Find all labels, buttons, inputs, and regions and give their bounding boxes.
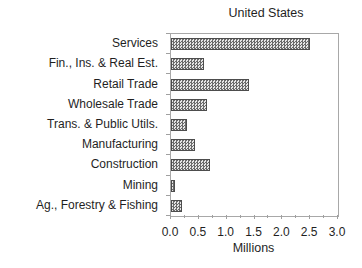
x-axis-tick bbox=[267, 215, 268, 218]
x-axis-tick bbox=[184, 215, 185, 218]
x-axis-tick bbox=[198, 215, 199, 219]
y-axis-tick bbox=[166, 134, 170, 135]
chart-title: United States bbox=[170, 6, 362, 20]
x-tick-label-2.5: 2.5 bbox=[294, 225, 324, 239]
x-tick-label-0.5: 0.5 bbox=[183, 225, 213, 239]
category-label-trans-public-utils: Trans. & Public Utils. bbox=[0, 117, 158, 131]
x-axis-tick bbox=[323, 215, 324, 218]
category-label-ag-forestry-fishing: Ag., Forestry & Fishing bbox=[0, 198, 158, 212]
x-axis-tick bbox=[240, 215, 241, 218]
y-axis-tick bbox=[166, 53, 170, 54]
x-axis-tick bbox=[337, 215, 338, 219]
x-tick-label-1.5: 1.5 bbox=[239, 225, 269, 239]
category-label-fin-ins-real-est: Fin., Ins. & Real Est. bbox=[0, 56, 158, 70]
y-axis-tick bbox=[166, 175, 170, 176]
category-label-manufacturing: Manufacturing bbox=[0, 137, 158, 151]
y-axis-tick bbox=[166, 154, 170, 155]
x-tick-label-0.0: 0.0 bbox=[155, 225, 185, 239]
category-label-services: Services bbox=[0, 36, 158, 50]
x-axis-tick bbox=[281, 215, 282, 219]
category-label-retail-trade: Retail Trade bbox=[0, 77, 158, 91]
x-axis-tick bbox=[170, 215, 171, 219]
bar-mining bbox=[171, 180, 175, 192]
bar-fin-ins-real-est bbox=[171, 58, 204, 70]
y-axis-tick bbox=[166, 114, 170, 115]
category-label-construction: Construction bbox=[0, 157, 158, 171]
x-axis-tick bbox=[212, 215, 213, 218]
bar-retail-trade bbox=[171, 79, 249, 91]
y-axis-tick bbox=[166, 94, 170, 95]
bar-ag-forestry-fishing bbox=[171, 200, 182, 212]
x-axis-tick bbox=[309, 215, 310, 219]
bar-chart-figure: United States ServicesFin., Ins. & Real … bbox=[0, 0, 362, 268]
x-tick-label-2.0: 2.0 bbox=[266, 225, 296, 239]
category-label-mining: Mining bbox=[0, 178, 158, 192]
x-axis-title: Millions bbox=[170, 241, 337, 255]
bar-manufacturing bbox=[171, 139, 195, 151]
category-label-wholesale-trade: Wholesale Trade bbox=[0, 97, 158, 111]
x-axis-tick bbox=[254, 215, 255, 219]
y-axis-tick bbox=[166, 73, 170, 74]
bar-construction bbox=[171, 159, 210, 171]
bar-services bbox=[171, 38, 310, 50]
x-tick-label-3.0: 3.0 bbox=[322, 225, 352, 239]
x-tick-label-1.0: 1.0 bbox=[211, 225, 241, 239]
bar-trans-public-utils bbox=[171, 119, 187, 131]
x-axis-tick bbox=[295, 215, 296, 218]
plot-area bbox=[170, 33, 339, 217]
x-axis-tick bbox=[226, 215, 227, 219]
y-axis-tick bbox=[166, 33, 170, 34]
y-axis-tick bbox=[166, 195, 170, 196]
bar-wholesale-trade bbox=[171, 99, 207, 111]
